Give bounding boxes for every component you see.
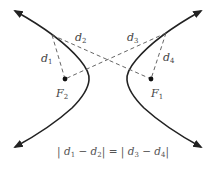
d1-line [52, 35, 65, 79]
label-f2: F2 [55, 87, 68, 101]
hyperbola-diagram: d2 d1 d3 d4 F2 F1 | d1 − d2| = | d3 − d4… [0, 0, 216, 171]
label-d1: d1 [41, 52, 53, 66]
label-f1: F1 [150, 87, 163, 101]
focus-f1-dot [149, 77, 154, 82]
focus-f2-dot [63, 77, 68, 82]
hyperbola-right-branch [127, 11, 201, 147]
label-d4: d4 [163, 51, 175, 65]
equation: | d1 − d2| = | d3 − d4| [57, 145, 169, 159]
label-d3: d3 [127, 31, 139, 45]
label-d2: d2 [75, 31, 87, 45]
